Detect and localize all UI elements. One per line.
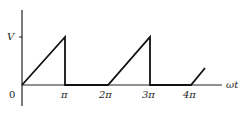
four-pi-label: 4π xyxy=(183,90,196,100)
omega-t-label: ωt xyxy=(226,80,238,90)
three-pi-label: 3π xyxy=(142,90,155,100)
pi-label: π xyxy=(61,90,68,100)
v-label: V xyxy=(7,32,14,42)
origin-label: 0 xyxy=(9,90,15,100)
two-pi-label: 2π xyxy=(99,90,112,100)
sawtooth-series xyxy=(22,37,205,85)
waveform-plot xyxy=(0,0,244,119)
